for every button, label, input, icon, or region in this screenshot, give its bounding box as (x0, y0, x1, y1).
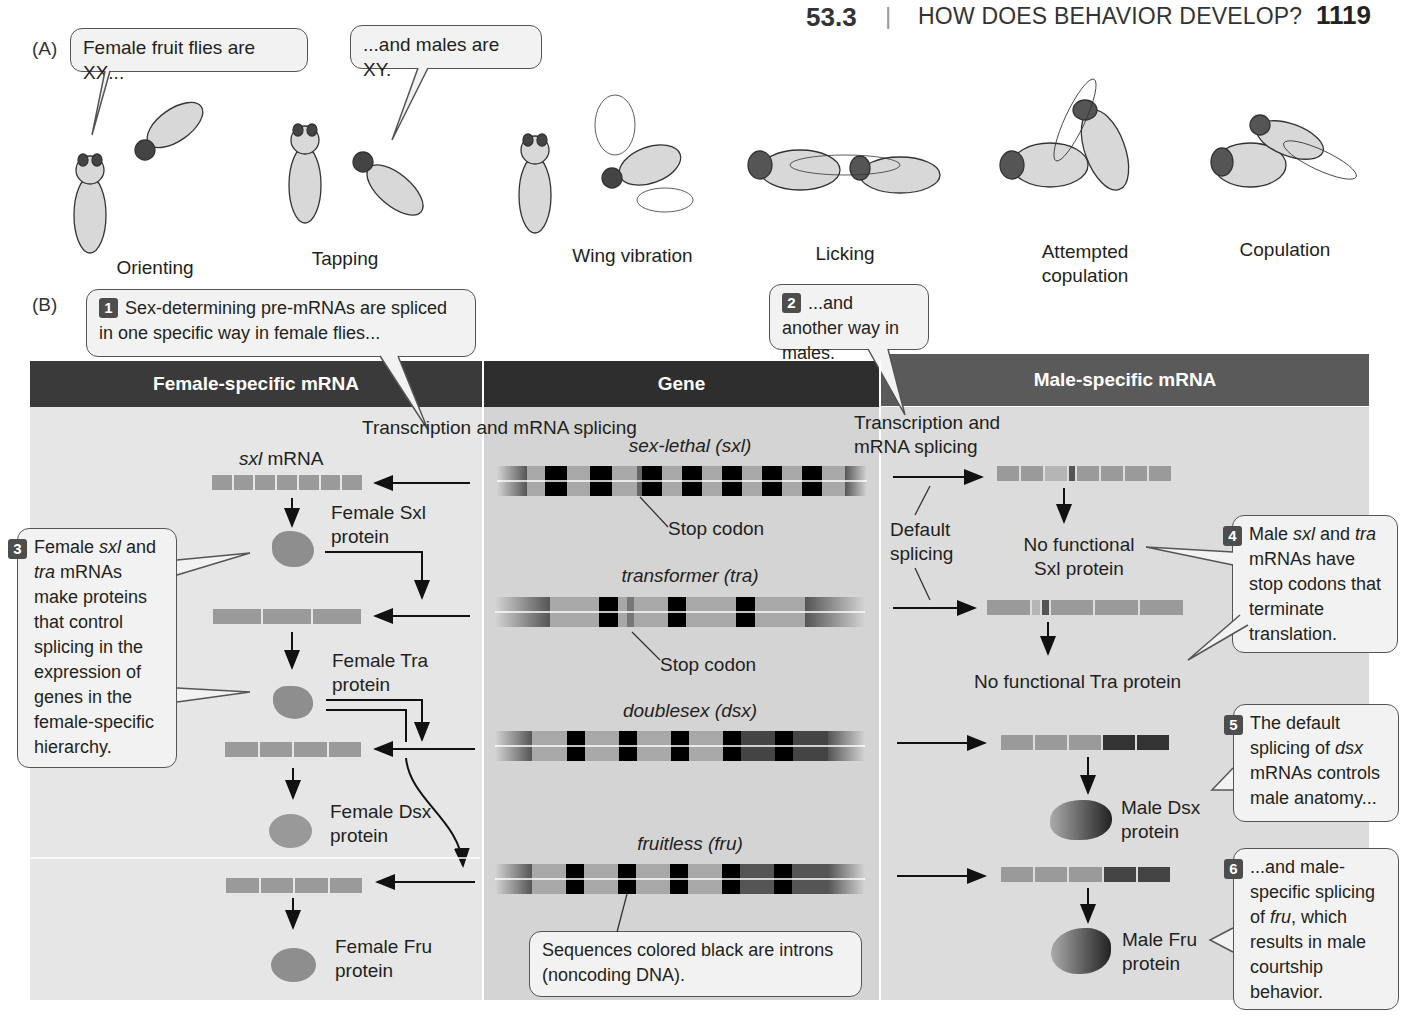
sxl-mrna-italic: sxl (239, 448, 262, 469)
stop-codon-label-tra: Stop codon (660, 653, 756, 677)
transcription-label-right: Transcription and mRNA splicing (854, 411, 1024, 459)
female-fru-protein-label: Female Fru protein (335, 935, 445, 983)
no-functional-tra-label: No functional Tra protein (974, 670, 1181, 694)
transcription-label-left: Transcription and mRNA splicing (362, 416, 637, 440)
sxl-mrna-rest: mRNA (262, 448, 323, 469)
arrows (0, 0, 1409, 1015)
male-dsx-protein-label: Male Dsx protein (1121, 796, 1211, 844)
no-functional-sxl-label: No functional Sxl protein (1014, 533, 1144, 581)
default-splicing-label: Default splicing (890, 518, 970, 566)
female-sxl-protein-label: Female Sxl protein (331, 501, 441, 549)
sxl-mrna-label: sxl mRNA (239, 447, 323, 471)
stop-codon-label-sxl: Stop codon (668, 517, 764, 541)
female-dsx-protein-label: Female Dsx protein (330, 800, 440, 848)
female-tra-protein-label: Female Tra protein (332, 649, 442, 697)
male-fru-protein-label: Male Fru protein (1122, 928, 1212, 976)
